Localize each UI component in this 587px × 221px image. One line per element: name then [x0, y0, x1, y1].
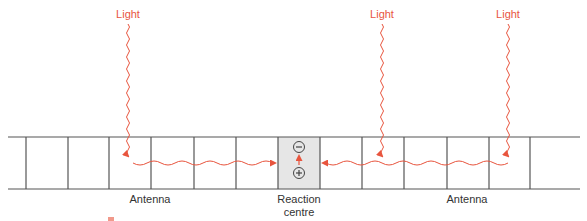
reaction-centre-label-line2: centre: [277, 206, 320, 219]
antenna-label-right: Antenna: [447, 193, 488, 206]
antenna-label-left: Antenna: [130, 193, 171, 206]
photosystem-diagram: [0, 0, 587, 221]
light-label-2: Light: [370, 8, 394, 20]
light-waves: [127, 24, 510, 156]
light-label-1: Light: [116, 8, 140, 20]
reaction-centre-label-line1: Reaction: [277, 193, 320, 206]
light-label-3: Light: [496, 8, 520, 20]
reaction-centre-label: Reaction centre: [277, 193, 320, 219]
caption-marker: [108, 217, 114, 221]
